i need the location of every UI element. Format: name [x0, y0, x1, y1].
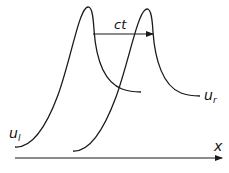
left-state-subscript: l [18, 133, 21, 143]
wave-diagram: ct ul ur x [0, 0, 229, 173]
left-state-label: ul [9, 125, 21, 143]
left-state-base: u [9, 125, 18, 141]
x-axis-label: x [213, 138, 223, 154]
right-state-base: u [204, 87, 213, 103]
shift-label: ct [114, 17, 127, 32]
right-state-label: ur [204, 87, 218, 105]
right-state-subscript: r [213, 95, 218, 105]
wave-profile-shifted [73, 9, 200, 151]
